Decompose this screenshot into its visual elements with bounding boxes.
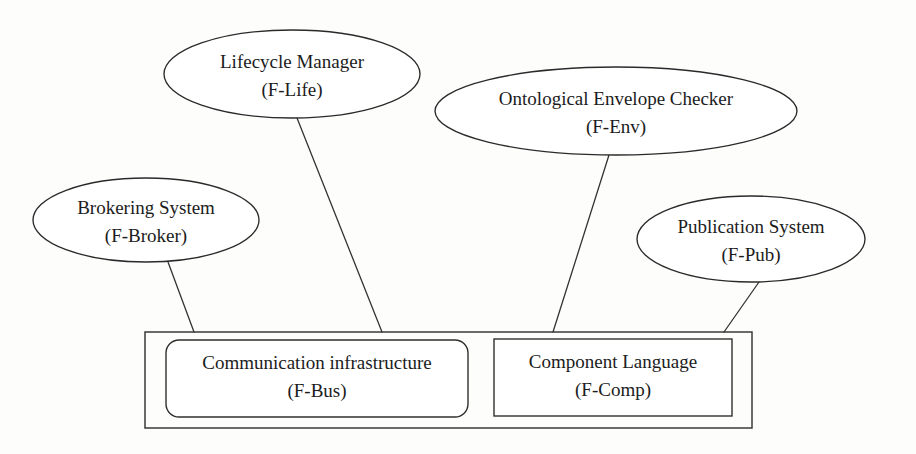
node-f-life-label-line2: (F-Life) [261,79,322,101]
node-f-env-label-line2: (F-Env) [586,116,646,138]
node-f-broker-label-line2: (F-Broker) [105,225,187,247]
node-f-bus-label-line2: (F-Bus) [287,380,346,402]
node-f-broker[interactable]: Brokering System (F-Broker) [33,178,259,262]
architecture-diagram: Lifecycle Manager (F-Life) Ontological E… [0,0,916,454]
node-f-life[interactable]: Lifecycle Manager (F-Life) [164,30,420,118]
node-f-pub[interactable]: Publication System (F-Pub) [637,196,865,282]
node-f-env-label-line1: Ontological Envelope Checker [499,88,734,109]
node-f-comp[interactable]: Component Language (F-Comp) [494,339,732,416]
node-f-comp-label-line2: (F-Comp) [575,379,651,401]
node-f-comp-label-line1: Component Language [529,351,697,372]
node-f-env-ellipse [435,67,797,155]
node-f-pub-label-line2: (F-Pub) [721,244,780,266]
node-f-pub-ellipse [637,196,865,282]
node-f-bus-label-line1: Communication infrastructure [202,352,432,373]
node-f-bus[interactable]: Communication infrastructure (F-Bus) [166,340,468,417]
node-f-env[interactable]: Ontological Envelope Checker (F-Env) [435,67,797,155]
node-f-broker-label-line1: Brokering System [77,197,215,218]
connector-f-life-to-f-bus [297,118,382,332]
node-f-life-label-line1: Lifecycle Manager [220,51,365,72]
node-f-life-ellipse [164,30,420,118]
node-f-broker-ellipse [33,178,259,262]
node-f-pub-label-line1: Publication System [677,216,824,237]
connector-f-env-to-f-comp [553,155,609,332]
diagram-canvas: Lifecycle Manager (F-Life) Ontological E… [0,0,916,454]
connector-f-broker-to-f-bus [168,262,194,332]
connector-f-pub-to-f-comp [724,282,759,332]
